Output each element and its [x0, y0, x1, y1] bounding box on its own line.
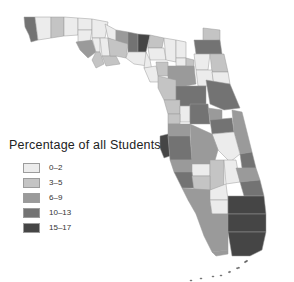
legend-swatch	[23, 223, 40, 233]
county-manatee	[170, 160, 192, 172]
county-clay	[194, 54, 210, 70]
legend-item: 3–5	[23, 175, 161, 190]
florida-keys	[190, 260, 248, 281]
legend-title: Percentage of all Students	[9, 138, 161, 152]
county-lake	[190, 104, 210, 124]
county-jefferson	[128, 32, 138, 52]
county-st-lucie	[236, 168, 260, 182]
legend-swatch	[23, 178, 40, 188]
county-columbia	[164, 38, 176, 62]
legend-item: 15–17	[23, 220, 161, 235]
county-sumter	[180, 106, 190, 122]
county-volusia	[206, 80, 240, 110]
county-palm-beach	[228, 196, 266, 214]
county-desoto	[192, 176, 210, 190]
map-legend: Percentage of all Students 0–2 3–5 6–9 1…	[9, 138, 161, 235]
county-sarasota	[174, 172, 194, 188]
county-union	[176, 58, 186, 66]
county-hendry	[210, 200, 228, 214]
county-lee	[188, 200, 212, 214]
legend-swatch	[23, 208, 40, 218]
legend-item: 6–9	[23, 190, 161, 205]
county-suwannee	[148, 48, 166, 60]
county-miami-dade	[228, 232, 266, 256]
county-seminole	[208, 108, 222, 120]
county-st-johns	[210, 54, 228, 72]
county-charlotte	[182, 188, 210, 200]
legend-item: 10–13	[23, 205, 161, 220]
county-broward	[228, 214, 266, 232]
county-okaloosa	[51, 17, 64, 38]
legend-swatch	[23, 163, 40, 173]
county-hillsborough	[168, 136, 192, 160]
county-collier	[196, 214, 228, 252]
county-baker	[176, 40, 186, 58]
legend-item: 0–2	[23, 160, 161, 175]
legend-label: 6–9	[49, 193, 62, 202]
county-indian-river	[240, 152, 256, 168]
county-pasco	[168, 124, 190, 136]
county-martin	[240, 180, 264, 196]
county-santa-rosa	[35, 17, 51, 40]
county-bay	[76, 40, 96, 58]
county-citrus	[164, 100, 180, 114]
county-franklin	[102, 56, 120, 66]
legend-label: 0–2	[49, 163, 62, 172]
county-hamilton	[148, 35, 164, 48]
county-orange	[210, 118, 234, 134]
legend-label: 15–17	[49, 223, 71, 232]
legend-swatch	[23, 193, 40, 203]
county-hernando	[168, 114, 180, 124]
county-jackson	[92, 19, 108, 38]
county-hardee	[192, 164, 210, 176]
legend-label: 3–5	[49, 178, 62, 187]
county-walton	[64, 17, 78, 36]
legend-label: 10–13	[49, 208, 71, 217]
county-holmes	[78, 18, 92, 30]
county-marion	[176, 86, 206, 106]
county-levy	[158, 76, 176, 100]
county-duval	[194, 40, 222, 54]
county-gilchrist	[156, 62, 168, 76]
